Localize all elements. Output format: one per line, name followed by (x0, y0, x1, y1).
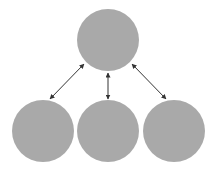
edge-top-to-bottom-right (132, 64, 166, 99)
node-bottom-left (12, 100, 74, 162)
node-bottom-center (77, 100, 139, 162)
node-top (77, 9, 139, 71)
edge-top-to-bottom-left (50, 64, 84, 99)
node-bottom-right (143, 100, 205, 162)
hierarchy-diagram (0, 0, 217, 172)
